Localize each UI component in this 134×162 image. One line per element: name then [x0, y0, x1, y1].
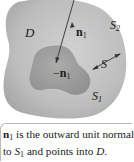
- label-d: D: [25, 26, 34, 39]
- caption-line-2: to S1 and points into D.: [3, 145, 132, 162]
- label-n1: n1: [76, 26, 87, 40]
- label-s1: S1: [92, 90, 102, 104]
- label-s2: S2: [110, 19, 120, 33]
- label-s: S: [101, 58, 107, 70]
- caption-line-1: n1 is the outward unit normal: [3, 128, 132, 145]
- caption-box: n1 is the outward unit normal to S1 and …: [0, 123, 132, 161]
- label-neg-n1: −n1: [53, 67, 70, 81]
